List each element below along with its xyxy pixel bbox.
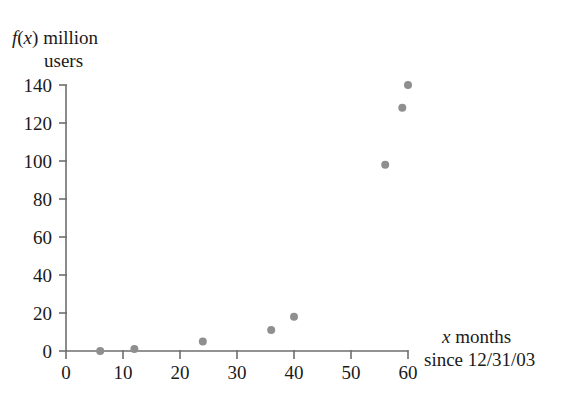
data-point — [267, 326, 275, 334]
y-tick-label: 100 — [24, 151, 53, 172]
y-tick-group: 020406080100120140 — [24, 75, 68, 362]
y-tick-label: 0 — [43, 341, 53, 362]
plot-area: 020406080100120140 0102030405060 — [0, 0, 566, 400]
y-tick-label: 140 — [24, 75, 53, 96]
y-tick-label: 20 — [33, 303, 52, 324]
x-tick-label: 30 — [228, 362, 247, 383]
y-tick-label: 40 — [33, 265, 52, 286]
x-tick-label: 50 — [342, 362, 361, 383]
x-tick-group: 0102030405060 — [61, 350, 417, 383]
data-point — [398, 104, 406, 112]
y-tick-label: 80 — [33, 189, 52, 210]
x-tick-label: 60 — [399, 362, 418, 383]
x-tick-label: 20 — [171, 362, 190, 383]
y-axis: 020406080100120140 — [24, 75, 68, 362]
data-point — [381, 161, 389, 169]
data-point — [199, 338, 207, 346]
data-point — [290, 313, 298, 321]
data-point-group — [96, 81, 412, 355]
x-tick-label: 0 — [61, 362, 71, 383]
data-point — [404, 81, 412, 89]
y-tick-label: 120 — [24, 113, 53, 134]
data-point — [130, 345, 138, 353]
scatter-plot-figure: f(x) million users x months since 12/31/… — [0, 0, 566, 400]
data-point — [96, 347, 104, 355]
x-tick-label: 10 — [114, 362, 133, 383]
y-tick-label: 60 — [33, 227, 52, 248]
x-axis: 0102030405060 — [61, 350, 417, 383]
x-tick-label: 40 — [285, 362, 304, 383]
